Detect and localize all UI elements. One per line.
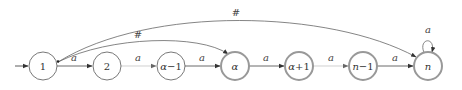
edge-label-hash-low: # <box>134 29 142 40</box>
state-label: α+1 <box>288 61 310 72</box>
state-label: 1 <box>40 61 46 72</box>
automaton-diagram: # # a a a a a a a 1 2 α−1 α α+1 n−1 n <box>0 0 462 90</box>
state-label: α−1 <box>160 61 182 72</box>
edge-label-am1-a: a <box>199 52 205 63</box>
state-alpha-minus-1: α−1 <box>157 52 185 80</box>
state-label: n <box>425 61 431 72</box>
edge-label-hash-high: # <box>232 7 240 18</box>
edge-label-a-ap1: a <box>263 52 269 63</box>
state-n: n <box>414 52 442 80</box>
state-label: α <box>232 61 239 72</box>
state-alpha-plus-1: α+1 <box>285 52 313 80</box>
edge-label-nm1-n: a <box>392 52 398 63</box>
state-label: 2 <box>104 61 110 72</box>
arc-origin-dot <box>57 60 60 63</box>
edge-label-2-am1: a <box>135 52 141 63</box>
edge-label-1-2: a <box>71 52 77 63</box>
state-n-minus-1: n−1 <box>349 52 377 80</box>
edge-label-ap1-nm1: a <box>328 52 334 63</box>
state-2: 2 <box>93 52 121 80</box>
edge-n-self-loop <box>423 41 433 53</box>
state-1: 1 <box>29 52 57 80</box>
edge-label-loop: a <box>425 24 431 35</box>
state-alpha: α <box>221 52 249 80</box>
state-label: n−1 <box>352 61 373 72</box>
